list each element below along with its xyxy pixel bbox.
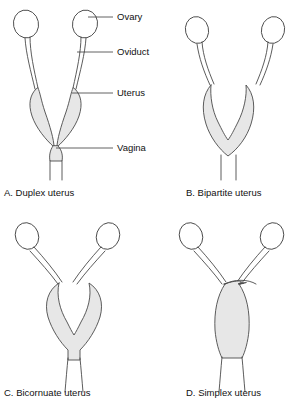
panel-c-bicornuate-uterus: C. Bicornuate uterus <box>4 219 123 398</box>
ovary-left-icon-b <box>183 14 212 46</box>
uterus-fused-body-b <box>203 85 253 156</box>
ovary-left-icon <box>11 8 41 41</box>
oviduct-left-icon-d <box>198 247 226 282</box>
oviduct-left-icon <box>30 37 38 88</box>
oviduct-left-inner-icon-d <box>194 251 222 284</box>
oviduct-right-inner-icon-d <box>241 251 269 284</box>
uterus-horn-right <box>57 88 81 147</box>
panel-a-caption: A. Duplex uterus <box>4 187 74 198</box>
oviduct-right-icon <box>73 37 81 88</box>
panel-a-duplex-uterus: A. Duplex uterus <box>4 8 100 198</box>
ovary-right-icon-c <box>93 219 124 252</box>
oviduct-left-icon-c <box>34 247 62 282</box>
ovary-right-icon-b <box>259 14 288 46</box>
oviduct-right-icon-c <box>73 247 101 282</box>
uterus-simplex-body-d <box>215 281 249 358</box>
oviduct-right-icon-d <box>237 247 265 282</box>
oviduct-right-icon-b <box>256 42 268 84</box>
panel-b-caption: B. Bipartite uterus <box>186 187 262 198</box>
panel-d-simplex-uterus: D. Simplex uterus <box>176 219 288 398</box>
ovary-right-icon-d <box>257 219 288 252</box>
panel-b-bipartite-uterus: B. Bipartite uterus <box>183 14 288 198</box>
ovary-right-icon <box>70 8 100 41</box>
panel-c-caption: C. Bicornuate uterus <box>4 387 91 398</box>
uterus-types-figure: A. Duplex uterus Ovary Oviduct Uterus Va… <box>0 0 298 398</box>
callout-label-oviduct: Oviduct <box>117 46 150 57</box>
oviduct-right-inner-icon-c <box>77 251 105 284</box>
ovary-left-icon-c <box>12 219 43 252</box>
oviduct-left-inner-icon-c <box>30 251 58 284</box>
uterus-bicornuate-body-c <box>46 283 101 360</box>
panel-d-caption: D. Simplex uterus <box>186 387 261 398</box>
callout-label-ovary: Ovary <box>117 11 143 22</box>
diagram-canvas: A. Duplex uterus Ovary Oviduct Uterus Va… <box>0 0 298 398</box>
ovary-left-icon-d <box>176 219 207 252</box>
uterus-horn-left <box>30 88 54 147</box>
callout-label-uterus: Uterus <box>117 87 145 98</box>
callout-label-vagina: Vagina <box>117 142 147 153</box>
oviduct-left-icon-b <box>202 42 214 84</box>
